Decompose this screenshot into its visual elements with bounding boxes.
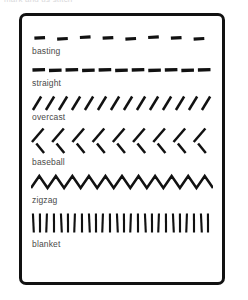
stitch-row-overcast: overcast xyxy=(31,94,213,122)
stitch-row-zigzag: zigzag xyxy=(31,173,213,205)
stitch-sampler-card: basting straight overcast baseball zigza xyxy=(19,13,225,285)
stitch-label-baseball: baseball xyxy=(31,157,213,167)
stitch-row-blanket: blanket xyxy=(31,212,213,249)
stitch-label-blanket: blanket xyxy=(31,239,213,249)
blanket-stitch-art xyxy=(31,212,213,238)
clipped-header-label: mark and us stitch xyxy=(4,0,248,4)
clipped-header-text: mark and us stitch xyxy=(0,0,248,7)
zigzag-stitch-art xyxy=(31,173,213,195)
stitch-label-zigzag: zigzag xyxy=(31,195,213,205)
stitch-row-basting: basting xyxy=(31,29,213,56)
straight-stitch-art xyxy=(31,63,213,77)
baseball-stitch-art xyxy=(31,127,213,157)
stitch-row-list: basting straight overcast baseball zigza xyxy=(22,16,222,282)
stitch-label-basting: basting xyxy=(31,46,213,56)
basting-stitch-art xyxy=(31,29,213,45)
stitch-row-straight: straight xyxy=(31,63,213,88)
stitch-label-straight: straight xyxy=(31,78,213,88)
overcast-stitch-art xyxy=(31,94,213,112)
stitch-row-baseball: baseball xyxy=(31,127,213,167)
stitch-label-overcast: overcast xyxy=(31,112,213,122)
